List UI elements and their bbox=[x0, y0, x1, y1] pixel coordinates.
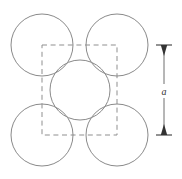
atom-group bbox=[11, 14, 148, 166]
dimension-arrowhead-top-icon bbox=[161, 45, 167, 56]
dimension-arrowhead-bottom-icon bbox=[161, 124, 167, 135]
dimension-annotation: a bbox=[156, 45, 172, 135]
unit-cell-outline bbox=[42, 45, 117, 135]
figure-canvas: a bbox=[0, 0, 182, 179]
crystal-structure-figure: a bbox=[0, 0, 182, 179]
lattice-parameter-label: a bbox=[162, 86, 167, 97]
center-atom bbox=[50, 60, 110, 120]
